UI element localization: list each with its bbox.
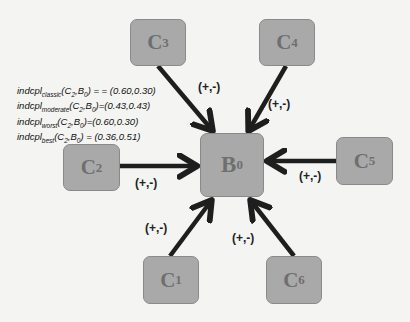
edge-c1-b0 bbox=[170, 201, 211, 256]
formula-value: = = (0.60,0.30) bbox=[93, 85, 155, 96]
formula-value: = (0.36,0.51) bbox=[86, 131, 140, 142]
node-c2-base: C bbox=[81, 155, 96, 180]
edge-label-c1: (+,-) bbox=[145, 221, 167, 235]
node-c5: C5 bbox=[336, 137, 393, 185]
node-c3-sub: 3 bbox=[162, 35, 169, 51]
formula-fn: indcpl bbox=[17, 85, 42, 96]
formula-arg-sub: 0 bbox=[80, 122, 84, 129]
formula-arg-sub: 0 bbox=[84, 91, 88, 98]
node-b0-base: B bbox=[221, 152, 236, 178]
edge-label-c4: (+,-) bbox=[268, 97, 290, 111]
edge-c3-b0 bbox=[158, 66, 212, 130]
node-c6: C6 bbox=[266, 256, 322, 304]
formula-fn: indcpl bbox=[17, 131, 42, 142]
formula-best: indcplbest(C2,B0) = (0.36,0.51) bbox=[17, 131, 156, 146]
node-b0: B0 bbox=[200, 133, 264, 197]
node-c6-base: C bbox=[283, 268, 298, 293]
formula-sub: worst bbox=[42, 122, 58, 129]
formula-fn: indcpl bbox=[17, 100, 42, 111]
node-c2: C2 bbox=[63, 144, 120, 191]
node-c2-sub: 2 bbox=[96, 160, 103, 176]
formula-value: =(0.60,0.30) bbox=[87, 116, 139, 127]
formula-moderate: indcplmoderate(C2,B0)=(0.43,0.43) bbox=[17, 100, 156, 115]
node-b0-sub: 0 bbox=[236, 157, 243, 173]
formula-arg-sub: 2 bbox=[79, 106, 83, 113]
formula-arg-sub: 2 bbox=[67, 122, 71, 129]
node-c5-base: C bbox=[354, 149, 369, 174]
node-c3: C3 bbox=[130, 19, 186, 66]
node-c3-base: C bbox=[147, 30, 162, 55]
formula-fn: indcpl bbox=[17, 116, 42, 127]
formula-classic: indcplclassic(C2,B0) = = (0.60,0.30) bbox=[17, 85, 156, 100]
coupling-formulas: indcplclassic(C2,B0) = = (0.60,0.30) ind… bbox=[17, 85, 156, 147]
formula-value: =(0.43,0.43) bbox=[99, 100, 151, 111]
edge-label-c6: (+,-) bbox=[232, 231, 254, 245]
formula-arg-sub: 0 bbox=[92, 106, 96, 113]
formula-sub: moderate bbox=[42, 106, 69, 113]
node-c6-sub: 6 bbox=[298, 272, 305, 288]
node-c1-sub: 1 bbox=[175, 272, 182, 288]
formula-arg-sub: 0 bbox=[77, 137, 81, 144]
formula-sub: classic bbox=[42, 91, 62, 98]
formula-arg-sub: 2 bbox=[64, 137, 68, 144]
node-c1-base: C bbox=[160, 268, 175, 293]
node-c4-base: C bbox=[276, 30, 291, 55]
edge-label-c5: (+,-) bbox=[299, 169, 321, 183]
formula-worst: indcplworst(C2,B0)=(0.60,0.30) bbox=[17, 116, 156, 131]
node-c5-sub: 5 bbox=[369, 153, 376, 169]
edge-c6-b0 bbox=[251, 201, 294, 256]
node-c4-sub: 4 bbox=[291, 35, 298, 51]
edge-label-c2: (+,-) bbox=[135, 176, 157, 190]
node-c1: C1 bbox=[143, 256, 199, 304]
formula-arg-sub: 2 bbox=[71, 91, 75, 98]
node-c4: C4 bbox=[259, 19, 315, 66]
edge-label-c3: (+,-) bbox=[198, 80, 220, 94]
formula-sub: best bbox=[42, 137, 54, 144]
